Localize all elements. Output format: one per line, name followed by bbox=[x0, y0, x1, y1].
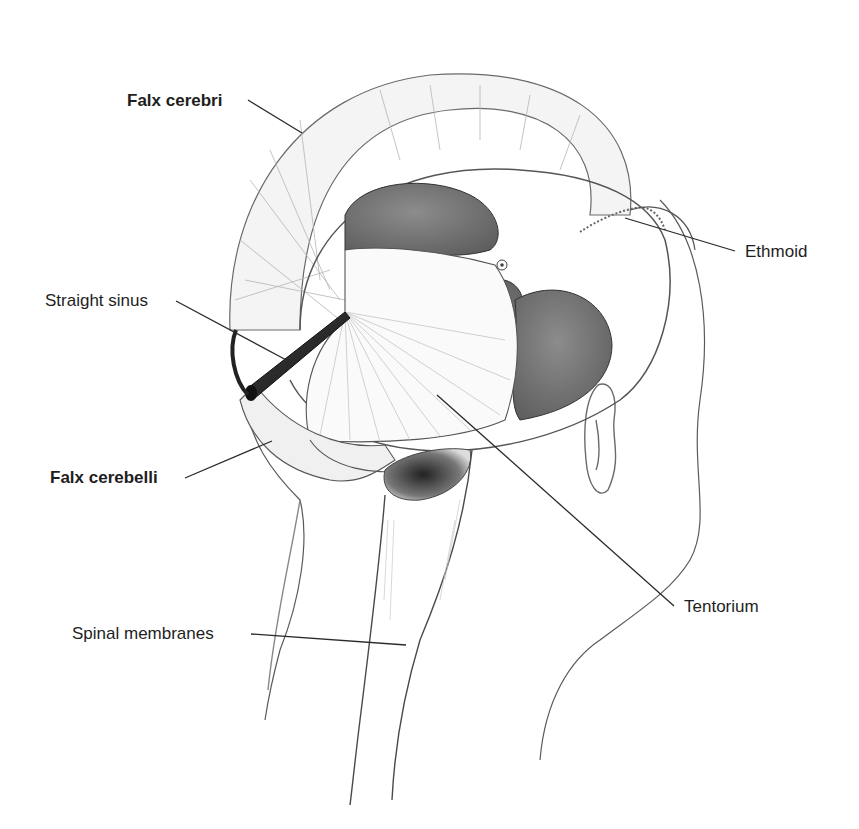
tentorium-shape bbox=[306, 248, 517, 442]
label-straight-sinus: Straight sinus bbox=[45, 291, 148, 311]
leader-ethmoid bbox=[625, 218, 735, 251]
skull-dura-illustration bbox=[0, 0, 859, 829]
label-spinal-membranes: Spinal membranes bbox=[72, 624, 214, 644]
label-ethmoid: Ethmoid bbox=[745, 242, 807, 262]
label-falx-cerebelli: Falx cerebelli bbox=[50, 468, 158, 488]
lower-lobe bbox=[513, 290, 612, 420]
leader-falx-cerebri bbox=[248, 100, 302, 133]
spinal-membranes-shape bbox=[268, 450, 472, 805]
label-tentorium: Tentorium bbox=[684, 597, 759, 617]
ear bbox=[585, 384, 616, 493]
upper-lobe bbox=[345, 183, 498, 255]
anatomy-figure: Falx cerebri Straight sinus Falx cerebel… bbox=[0, 0, 859, 829]
label-falx-cerebri: Falx cerebri bbox=[127, 91, 222, 111]
leader-tentorium bbox=[437, 395, 674, 606]
foramen-magnum bbox=[384, 449, 471, 501]
leader-falx-cerebelli bbox=[185, 441, 272, 478]
